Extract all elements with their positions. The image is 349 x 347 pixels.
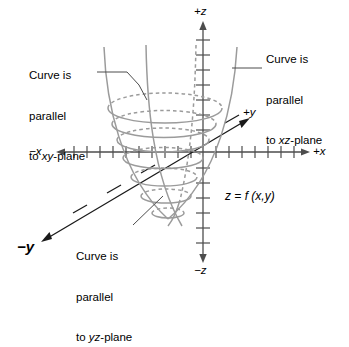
y-axis-ticks <box>73 115 239 213</box>
annotation-yz-line1: Curve is <box>76 250 132 264</box>
z-axis-positive-arrowhead <box>199 21 206 30</box>
axis-label-positive-x: +x <box>313 145 325 157</box>
axis-label-negative-z: −z <box>194 264 206 276</box>
z-axis-negative-arrowhead <box>199 254 206 263</box>
axis-label-negative-y: −y <box>17 238 34 255</box>
level-curve-back-arc <box>112 111 216 125</box>
annotation-yz-tail: -plane <box>100 331 132 343</box>
profile-curve-left-outer <box>104 47 168 219</box>
annotation-xy-line2: parallel <box>29 110 85 124</box>
level-curve-3 <box>117 128 209 152</box>
leader-line-xy-plane <box>97 72 147 100</box>
annotation-xz-plane: Curve is parallel to xz-plane <box>266 26 322 161</box>
equation-label: z = f (x,y) <box>225 189 275 203</box>
profile-curve-inner-left <box>146 45 182 226</box>
annotation-yz-line2: parallel <box>76 291 132 305</box>
annotation-xy-line1: Curve is <box>29 69 85 83</box>
level-curve-front-arc <box>112 124 216 138</box>
annotation-yz-italic: yz <box>89 331 101 343</box>
annotation-yz-line3: to yz-plane <box>76 331 132 345</box>
level-curve-1 <box>108 93 222 123</box>
axis-label-positive-y: +y <box>243 106 255 118</box>
annotation-xz-line2: parallel <box>266 94 322 108</box>
axis-label-positive-z: +z <box>194 5 206 17</box>
y-axis-negative-arrowhead <box>41 232 52 242</box>
annotation-yz-plane: Curve is parallel to yz-plane <box>76 223 132 347</box>
y-axis-positive-arrowhead <box>239 118 250 128</box>
annotation-xy-tail: -plane <box>53 150 85 162</box>
level-curve-front-arc <box>152 213 184 218</box>
annotation-xz-line1: Curve is <box>266 53 322 67</box>
axis-label-negative-x: −x <box>29 145 41 157</box>
annotation-xz-italic: xz <box>279 134 291 146</box>
annotation-xy-italic: xy <box>42 150 54 162</box>
level-curve-front-arc <box>123 158 203 169</box>
